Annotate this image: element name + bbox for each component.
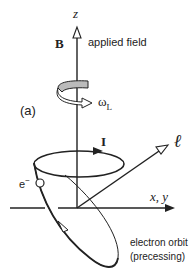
precession-curl-arrow-icon	[57, 81, 92, 108]
larmor-precession-diagram: z B applied field ωL (a) I ℓ e− x, y ele…	[0, 0, 195, 280]
xy-axis-label: x, y	[150, 190, 168, 203]
electron-label: e−	[19, 177, 30, 190]
orbit-label-line2: (precessing)	[130, 252, 185, 262]
field-symbol: B	[55, 37, 64, 50]
current-loop	[34, 147, 124, 177]
xy-axis	[10, 204, 175, 212]
orbit-label-line1: electron orbit	[130, 238, 188, 248]
field-description: applied field	[88, 37, 147, 48]
z-axis	[73, 27, 81, 208]
panel-label: (a)	[20, 104, 36, 117]
omega-symbol: ω	[98, 94, 107, 109]
omega-subscript: L	[107, 102, 113, 112]
z-axis-arrowhead-icon	[73, 27, 81, 38]
electron-charge: −	[25, 176, 30, 185]
current-symbol: I	[101, 135, 106, 148]
xy-axis-arrowhead-icon	[165, 204, 175, 212]
z-axis-label: z	[73, 7, 78, 20]
ell-symbol: ℓ	[174, 132, 182, 150]
precessing-orbit	[34, 163, 118, 267]
omega-label: ωL	[98, 95, 112, 112]
electron-icon	[36, 179, 44, 187]
